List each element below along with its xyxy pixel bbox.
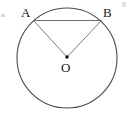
vertex-label-a: A <box>21 6 30 19</box>
scan-artifact-right-icon <box>122 2 126 7</box>
vertex-label-o: O <box>61 61 70 74</box>
radius-ob-line <box>67 21 102 58</box>
scan-artifact-left-icon <box>1 14 5 17</box>
vertex-label-b: B <box>103 6 112 19</box>
geometry-figure: A B O <box>0 0 131 122</box>
center-dot <box>65 55 68 58</box>
radius-oa-line <box>34 21 68 58</box>
